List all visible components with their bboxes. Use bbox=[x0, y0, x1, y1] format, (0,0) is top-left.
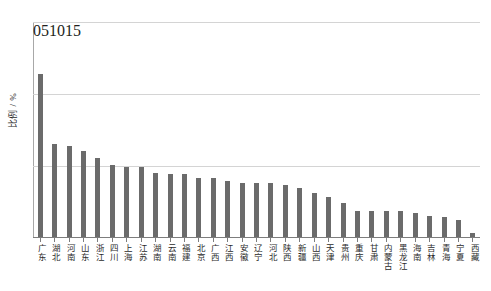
bar-slot bbox=[206, 22, 220, 237]
x-tick-label: 浙江 bbox=[93, 244, 103, 271]
x-tick-mark bbox=[198, 238, 199, 242]
bar-slot bbox=[293, 22, 307, 237]
x-tick-label: 陕西 bbox=[281, 244, 291, 271]
bar-chart: 比例 / % 051015 广东湖北河南山东浙江四川上海江苏湖南云南福建北京广西… bbox=[0, 0, 491, 291]
bar[interactable] bbox=[297, 188, 302, 237]
x-tick-slot bbox=[264, 238, 278, 242]
bar[interactable] bbox=[124, 167, 129, 237]
x-tick-slot bbox=[105, 238, 119, 242]
x-tick-label: 广东 bbox=[35, 244, 45, 271]
x-tick-slot bbox=[350, 238, 364, 242]
x-tick-mark bbox=[213, 238, 214, 242]
bar[interactable] bbox=[196, 178, 201, 237]
bar-slot bbox=[466, 22, 480, 237]
x-label-slot: 天津 bbox=[321, 244, 335, 271]
bar[interactable] bbox=[369, 211, 374, 237]
bar[interactable] bbox=[326, 197, 331, 237]
x-label-slot: 青海 bbox=[437, 244, 451, 271]
x-label-slot: 浙江 bbox=[91, 244, 105, 271]
x-tick-label: 重庆 bbox=[353, 244, 363, 271]
bar[interactable] bbox=[67, 146, 72, 237]
bar-slot bbox=[365, 22, 379, 237]
x-tick-mark bbox=[112, 238, 113, 242]
bar-slot bbox=[148, 22, 162, 237]
x-label-slot: 江西 bbox=[220, 244, 234, 271]
x-tick-label: 江西 bbox=[223, 244, 233, 271]
bar-slot bbox=[278, 22, 292, 237]
x-label-slot: 海南 bbox=[408, 244, 422, 271]
bar[interactable] bbox=[182, 174, 187, 237]
bar[interactable] bbox=[355, 211, 360, 237]
x-tick-label: 新疆 bbox=[295, 244, 305, 271]
x-tick-label: 山东 bbox=[79, 244, 89, 271]
x-tick-mark bbox=[256, 238, 257, 242]
x-tick-label: 吉林 bbox=[425, 244, 435, 271]
x-tick-slot bbox=[33, 238, 47, 242]
x-axis-labels: 广东湖北河南山东浙江四川上海江苏湖南云南福建北京广西江西安徽辽宁河北陕西新疆山西… bbox=[33, 244, 480, 271]
x-tick-slot bbox=[394, 238, 408, 242]
bar[interactable] bbox=[427, 216, 432, 238]
bar[interactable] bbox=[52, 144, 57, 237]
x-tick-mark bbox=[242, 238, 243, 242]
x-label-slot: 重庆 bbox=[350, 244, 364, 271]
x-tick-slot bbox=[148, 238, 162, 242]
bar[interactable] bbox=[225, 181, 230, 237]
x-tick-label: 宁夏 bbox=[454, 244, 464, 271]
bar[interactable] bbox=[442, 217, 447, 237]
bar[interactable] bbox=[95, 158, 100, 237]
x-tick-label: 西藏 bbox=[468, 244, 478, 271]
bar[interactable] bbox=[398, 211, 403, 237]
bar[interactable] bbox=[38, 74, 43, 237]
x-tick-slot bbox=[76, 238, 90, 242]
bar[interactable] bbox=[139, 167, 144, 237]
x-tick-label: 贵州 bbox=[338, 244, 348, 271]
bar-slot bbox=[177, 22, 191, 237]
bar-slot bbox=[394, 22, 408, 237]
bar-slot bbox=[76, 22, 90, 237]
bar[interactable] bbox=[240, 183, 245, 237]
bar[interactable] bbox=[341, 203, 346, 237]
x-tick-slot bbox=[408, 238, 422, 242]
bar[interactable] bbox=[283, 185, 288, 237]
bar-slot bbox=[33, 22, 47, 237]
x-tick-mark bbox=[386, 238, 387, 242]
x-tick-mark bbox=[343, 238, 344, 242]
x-tick-label: 河北 bbox=[266, 244, 276, 271]
bar-slot bbox=[192, 22, 206, 237]
x-tick-label: 辽宁 bbox=[252, 244, 262, 271]
x-tick-mark bbox=[328, 238, 329, 242]
bar-slot bbox=[264, 22, 278, 237]
bar[interactable] bbox=[168, 174, 173, 237]
bar-slot bbox=[249, 22, 263, 237]
bar[interactable] bbox=[413, 213, 418, 237]
x-label-slot: 北京 bbox=[192, 244, 206, 271]
bar[interactable] bbox=[81, 151, 86, 237]
x-label-slot: 上海 bbox=[120, 244, 134, 271]
x-tick-mark bbox=[285, 238, 286, 242]
x-tick-mark bbox=[97, 238, 98, 242]
x-tick-mark bbox=[83, 238, 84, 242]
bar[interactable] bbox=[268, 183, 273, 237]
x-tick-label: 福建 bbox=[180, 244, 190, 271]
x-tick-slot bbox=[336, 238, 350, 242]
bar-slot bbox=[408, 22, 422, 237]
bar[interactable] bbox=[456, 220, 461, 237]
bar[interactable] bbox=[384, 211, 389, 237]
bar[interactable] bbox=[254, 183, 259, 237]
x-tick-slot bbox=[220, 238, 234, 242]
x-tick-slot bbox=[206, 238, 220, 242]
x-label-slot: 贵州 bbox=[336, 244, 350, 271]
x-label-slot: 宁夏 bbox=[451, 244, 465, 271]
bar[interactable] bbox=[211, 178, 216, 237]
x-tick-mark bbox=[357, 238, 358, 242]
x-tick-mark bbox=[270, 238, 271, 242]
x-tick-mark bbox=[371, 238, 372, 242]
x-tick-slot bbox=[62, 238, 76, 242]
x-tick-mark bbox=[415, 238, 416, 242]
bar[interactable] bbox=[153, 173, 158, 238]
x-tick-slot bbox=[163, 238, 177, 242]
bar[interactable] bbox=[110, 165, 115, 237]
bar[interactable] bbox=[312, 193, 317, 237]
x-label-slot: 吉林 bbox=[422, 244, 436, 271]
bar[interactable] bbox=[470, 233, 475, 237]
